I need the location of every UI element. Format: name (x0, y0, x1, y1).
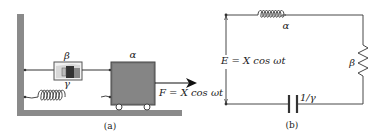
mechanical-system: β γ α F = X cos ωt (a) (17, 14, 224, 131)
terminal-top (225, 14, 228, 17)
diagram-canvas: β γ α F = X cos ωt (a) (0, 0, 380, 137)
resistor-icon (358, 45, 368, 76)
resistor-label: β (348, 57, 355, 68)
caption-a: (a) (104, 121, 116, 131)
wall (17, 14, 24, 116)
inductor-icon (258, 11, 286, 18)
force-label: F = X cos ωt (158, 87, 224, 98)
mass-label: α (130, 49, 137, 60)
inductor-label: α (283, 20, 290, 31)
spring-label: γ (64, 78, 70, 89)
wheel-icon (116, 104, 122, 110)
floor (17, 110, 182, 116)
damper-label: β (63, 50, 70, 61)
wheel-icon (144, 104, 150, 110)
source-label: E = X cos ωt (220, 55, 286, 66)
capacitor-label: 1/γ (300, 92, 316, 103)
terminal-bottom (225, 103, 228, 106)
mass-cart (111, 62, 155, 110)
caption-b: (b) (286, 120, 299, 130)
spring-icon (25, 90, 110, 100)
